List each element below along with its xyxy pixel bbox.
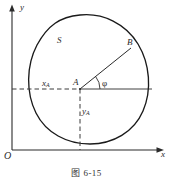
point-label-a: A — [73, 78, 79, 87]
figure-caption: 图 6-15 — [0, 166, 173, 179]
x-coordinate-label: xA — [42, 79, 50, 89]
y-coordinate-subscript: A — [86, 110, 90, 116]
angle-arc-phi — [96, 77, 100, 90]
angle-label-phi: φ — [102, 79, 107, 88]
y-axis — [9, 5, 15, 151]
x-axis — [12, 147, 164, 153]
body-label-s: S — [57, 36, 62, 45]
figure-drawing — [0, 0, 173, 179]
point-a-marker — [79, 88, 81, 90]
origin-label: O — [4, 151, 11, 161]
x-axis-label: x — [161, 150, 165, 159]
point-label-b: B — [127, 38, 133, 47]
y-coordinate-label: yA — [82, 107, 90, 117]
figure-container: y x O S B A xA yA φ 图 6-15 — [0, 0, 173, 179]
y-axis-label: y — [20, 3, 24, 12]
x-coordinate-subscript: A — [46, 82, 50, 88]
